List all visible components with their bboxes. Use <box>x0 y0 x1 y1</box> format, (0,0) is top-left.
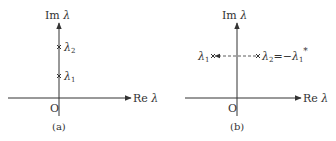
figure-canvas: Im λ Re λ O λ2 λ1 (a) Im λ Re λ O λ1 <box>0 0 336 141</box>
imag-axis-label: Im λ <box>45 9 70 22</box>
point-lambda1: λ1 <box>57 70 75 84</box>
origin-label: O <box>50 102 59 115</box>
point-lambda2: λ2=−λ1* <box>256 46 308 64</box>
cross-marker-icon <box>256 54 260 58</box>
caption-a: (a) <box>52 121 66 132</box>
point-lambda1: λ1 <box>197 50 215 64</box>
real-axis-label: Re λ <box>303 92 328 105</box>
svg-text:λ1: λ1 <box>197 50 209 64</box>
svg-text:λ2=−λ1*: λ2=−λ1* <box>261 46 308 64</box>
svg-text:λ2: λ2 <box>63 41 75 55</box>
panel-a: Im λ Re λ O λ2 λ1 (a) <box>8 9 158 132</box>
svg-text:λ1: λ1 <box>63 70 75 84</box>
caption-b: (b) <box>230 121 244 132</box>
real-axis-label: Re λ <box>133 92 158 105</box>
cross-marker-icon <box>211 54 215 58</box>
imag-axis-label: Im λ <box>222 9 247 22</box>
origin-label: O <box>228 102 237 115</box>
panel-b: Im λ Re λ O λ1 λ2=−λ1* (b) <box>185 9 328 132</box>
point-lambda2: λ2 <box>57 41 75 55</box>
